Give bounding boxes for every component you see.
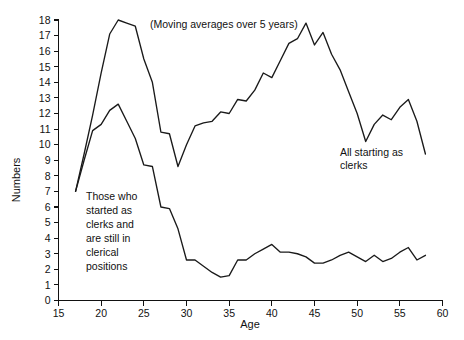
y-tick-label: 7 <box>45 185 51 197</box>
upper-series-label-line2: clerks <box>340 159 367 171</box>
moving-average-note: (Moving averages over 5 years) <box>150 18 298 30</box>
x-tick-label: 50 <box>351 307 363 319</box>
x-tick-label: 40 <box>266 307 278 319</box>
x-tick-label: 60 <box>437 307 449 319</box>
x-tick-label: 45 <box>309 307 321 319</box>
y-axis-title: Numbers <box>10 157 22 202</box>
x-tick-label: 30 <box>181 307 193 319</box>
y-tick-label: 14 <box>39 76 51 88</box>
lower-series-label-line4: are still in <box>86 232 131 244</box>
y-tick-label: 1 <box>45 279 51 291</box>
y-tick-label: 3 <box>45 248 51 260</box>
y-tick-label: 18 <box>39 14 51 26</box>
chart-background <box>0 0 464 340</box>
y-tick-label: 0 <box>45 294 51 306</box>
y-tick-label: 8 <box>45 170 51 182</box>
lower-series-label-line2: started as <box>86 204 132 216</box>
lower-series-label-line3: clerks and <box>86 218 134 230</box>
y-tick-label: 9 <box>45 154 51 166</box>
x-tick-label: 55 <box>394 307 406 319</box>
line-chart: 0123456789101112131415161718 Numbers 152… <box>0 0 464 340</box>
y-tick-label: 13 <box>39 92 51 104</box>
lower-series-label-line1: Those who <box>86 190 138 202</box>
lower-series-label-line5: clerical <box>86 246 119 258</box>
y-tick-label: 17 <box>39 29 51 41</box>
y-tick-label: 5 <box>45 216 51 228</box>
x-tick-label: 35 <box>223 307 235 319</box>
x-tick-label: 20 <box>95 307 107 319</box>
chart-figure: 0123456789101112131415161718 Numbers 152… <box>0 0 464 340</box>
upper-series-label-line1: All starting as <box>340 146 403 158</box>
y-tick-label: 4 <box>45 232 51 244</box>
y-tick-label: 16 <box>39 45 51 57</box>
y-tick-label: 6 <box>45 201 51 213</box>
lower-series-label-line6: positions <box>86 260 127 272</box>
y-tick-label: 12 <box>39 107 51 119</box>
x-tick-label: 25 <box>138 307 150 319</box>
y-tick-label: 15 <box>39 61 51 73</box>
y-tick-label: 10 <box>39 138 51 150</box>
x-axis-title: Age <box>240 318 260 330</box>
y-tick-label: 11 <box>40 123 51 135</box>
y-tick-label: 2 <box>45 263 51 275</box>
x-tick-label: 15 <box>53 307 65 319</box>
